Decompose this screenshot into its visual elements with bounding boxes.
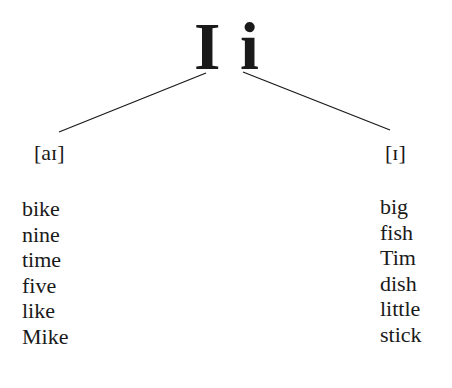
ipa-long-i: [aɪ] <box>34 141 65 165</box>
word-item: time <box>22 247 68 273</box>
word-item: fish <box>380 220 422 246</box>
word-item: five <box>22 273 68 299</box>
word-item: Mike <box>22 324 68 350</box>
word-item: little <box>380 296 422 322</box>
word-item: stick <box>380 322 422 348</box>
ipa-short-i: [ɪ] <box>385 141 406 165</box>
short-i-word-list: big fish Tim dish little stick <box>380 194 422 347</box>
word-item: nine <box>22 222 68 248</box>
long-i-word-list: bike nine time five like Mike <box>22 196 68 349</box>
word-item: bike <box>22 196 68 222</box>
word-item: like <box>22 298 68 324</box>
word-item: Tim <box>380 245 422 271</box>
word-item: big <box>380 194 422 220</box>
word-item: dish <box>380 271 422 297</box>
left-branch-line <box>59 73 206 132</box>
right-branch-line <box>243 72 390 130</box>
